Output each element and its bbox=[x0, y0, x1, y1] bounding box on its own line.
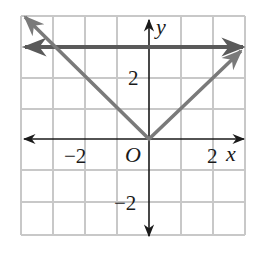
graph: y x O −2 2 2 −2 bbox=[0, 0, 256, 253]
origin-label: O bbox=[125, 142, 141, 167]
y-tick-pos2: 2 bbox=[128, 66, 139, 90]
y-tick-neg2: −2 bbox=[114, 191, 136, 215]
x-axis-label: x bbox=[225, 141, 236, 166]
x-tick-neg2: −2 bbox=[64, 144, 86, 168]
y-axis-label: y bbox=[154, 14, 166, 39]
x-tick-pos2: 2 bbox=[207, 144, 218, 168]
